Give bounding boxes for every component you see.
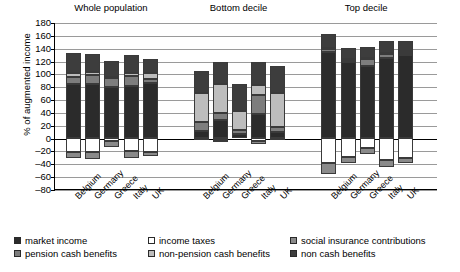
bar-segment-income-taxes	[398, 138, 413, 159]
legend-label: non-pension cash benefits	[159, 249, 270, 259]
y-axis-tick	[51, 49, 55, 50]
bar-segment-non-pension-cash-benefits	[124, 73, 139, 76]
bar-top-decile-belgium[interactable]	[321, 22, 336, 189]
bar-segment-market-income	[85, 84, 100, 138]
bar-segment-non-pension-cash-benefits	[85, 72, 100, 75]
bar-segment-pension-cash-benefits	[124, 76, 139, 86]
bar-segment-non-cash-benefits	[66, 53, 81, 73]
bar-segment-social-insurance-contributions	[66, 152, 81, 158]
bar-segment-non-cash-benefits	[124, 55, 139, 74]
bar-bottom-decile-belgium[interactable]	[194, 22, 209, 189]
bar-segment-non-pension-cash-benefits	[360, 58, 375, 60]
legend-label: market income	[25, 236, 87, 246]
bar-segment-pension-cash-benefits	[213, 113, 228, 120]
bar-top-decile-italy[interactable]	[379, 22, 394, 189]
bar-segment-income-taxes	[66, 138, 81, 152]
bar-segment-non-cash-benefits	[104, 61, 119, 77]
bar-segment-social-insurance-contributions	[270, 138, 285, 140]
bar-segment-non-pension-cash-benefits	[379, 53, 394, 55]
bar-segment-pension-cash-benefits	[104, 78, 119, 87]
bar-segment-non-pension-cash-benefits	[232, 111, 247, 130]
bar-segment-non-pension-cash-benefits	[270, 93, 285, 126]
bar-segment-social-insurance-contributions	[213, 140, 228, 142]
bar-segment-social-insurance-contributions	[341, 157, 356, 163]
group-title-whole-population: Whole population	[51, 2, 171, 13]
bar-segment-income-taxes	[143, 138, 158, 153]
bar-whole-population-italy[interactable]	[124, 22, 139, 189]
bar-segment-non-cash-benefits	[143, 59, 158, 73]
bar-segment-pension-cash-benefits	[360, 59, 375, 65]
bar-segment-market-income	[213, 120, 228, 137]
y-axis-tick	[51, 74, 55, 75]
swatch-social-insurance-contributions-icon	[290, 237, 297, 244]
bar-segment-pension-cash-benefits	[143, 79, 158, 83]
gridline	[55, 190, 437, 191]
y-axis-tick-label: –20	[35, 147, 51, 157]
bar-top-decile-greece[interactable]	[360, 22, 375, 189]
y-axis-tick	[51, 177, 55, 178]
bar-whole-population-uk[interactable]	[143, 22, 158, 189]
bar-bottom-decile-italy[interactable]	[251, 22, 266, 189]
y-axis-tick-label: –60	[35, 172, 51, 182]
y-axis-tick	[51, 36, 55, 37]
swatch-pension-cash-benefits-icon	[14, 250, 21, 257]
legend-item-pension-cash-benefits: pension cash benefits	[14, 249, 117, 259]
bar-bottom-decile-germany[interactable]	[213, 22, 228, 189]
y-axis-tick	[51, 100, 55, 101]
group-title-top-decile: Top decile	[306, 2, 426, 13]
legend-item-non-pension-cash-benefits: non-pension cash benefits	[148, 249, 270, 259]
bar-segment-pension-cash-benefits	[66, 77, 81, 85]
bar-segment-market-income	[124, 86, 139, 137]
y-axis-tick-label: –80	[35, 185, 51, 195]
legend-label: social insurance contributions	[301, 236, 426, 246]
bar-bottom-decile-uk[interactable]	[270, 22, 285, 189]
legend-item-social-insurance-contributions: social insurance contributions	[290, 236, 426, 246]
bar-segment-non-cash-benefits	[232, 84, 247, 111]
legend-item-market-income: market income	[14, 236, 87, 246]
y-axis-tick	[51, 151, 55, 152]
bar-segment-non-pension-cash-benefits	[251, 85, 266, 95]
bar-segment-income-taxes	[341, 138, 356, 157]
bar-segment-market-income	[379, 58, 394, 138]
bar-segment-non-pension-cash-benefits	[194, 93, 209, 122]
y-axis-tick	[51, 139, 55, 140]
bar-segment-non-pension-cash-benefits	[104, 77, 119, 79]
y-axis-tick	[51, 164, 55, 165]
legend-label: income taxes	[159, 236, 215, 246]
plot-area	[54, 23, 437, 190]
bar-top-decile-germany[interactable]	[341, 22, 356, 189]
bar-whole-population-belgium[interactable]	[66, 22, 81, 189]
bar-whole-population-greece[interactable]	[104, 22, 119, 189]
bar-segment-market-income	[360, 66, 375, 138]
bar-segment-income-taxes	[85, 138, 100, 152]
bar-bottom-decile-greece[interactable]	[232, 22, 247, 189]
y-axis-tick-label: 120	[35, 57, 51, 67]
bar-segment-non-cash-benefits	[398, 41, 413, 51]
y-axis-tick	[51, 113, 55, 114]
y-axis-tick-label: 100	[35, 70, 51, 80]
bar-segment-social-insurance-contributions	[321, 163, 336, 173]
swatch-market-income-icon	[14, 237, 21, 244]
bar-segment-market-income	[321, 52, 336, 137]
y-axis-tick-label: 180	[35, 18, 51, 28]
bar-segment-social-insurance-contributions	[360, 148, 375, 154]
bar-segment-social-insurance-contributions	[124, 151, 139, 157]
bar-segment-non-cash-benefits	[321, 34, 336, 48]
y-axis-tick-label: 80	[40, 82, 51, 92]
y-axis-tick	[51, 126, 55, 127]
bar-segment-non-pension-cash-benefits	[66, 73, 81, 77]
bar-segment-pension-cash-benefits	[270, 127, 285, 132]
bar-segment-income-taxes	[360, 138, 375, 148]
bar-segment-non-cash-benefits	[360, 47, 375, 58]
bar-segment-market-income	[341, 62, 356, 137]
bar-segment-non-cash-benefits	[379, 41, 394, 53]
bar-segment-non-cash-benefits	[85, 54, 100, 72]
y-axis-tick-label: 140	[35, 44, 51, 54]
bar-segment-income-taxes	[321, 138, 336, 164]
bar-segment-social-insurance-contributions	[398, 158, 413, 162]
bar-whole-population-germany[interactable]	[85, 22, 100, 189]
legend-item-non-cash-benefits: non cash benefits	[290, 249, 375, 259]
legend-label: non cash benefits	[301, 249, 375, 259]
bar-top-decile-uk[interactable]	[398, 22, 413, 189]
chart-container: Whole population Bottom decile Top decil…	[0, 0, 460, 272]
